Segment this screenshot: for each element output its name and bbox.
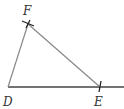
segment-fe bbox=[28, 24, 100, 87]
point-label-e: E bbox=[94, 96, 103, 108]
point-label-f: F bbox=[23, 5, 31, 17]
cross-mark-f-icon bbox=[22, 20, 34, 28]
segment-df bbox=[8, 24, 28, 87]
point-label-d: D bbox=[3, 96, 13, 108]
triangle-construction-diagram bbox=[0, 0, 124, 109]
